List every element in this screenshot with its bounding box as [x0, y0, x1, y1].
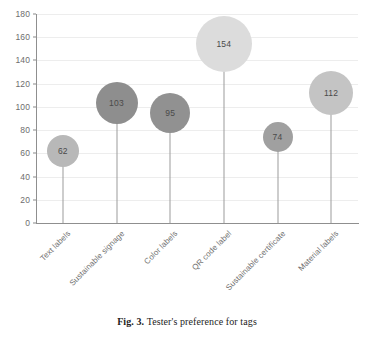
- figure-caption: Fig. 3. Tester's preference for tags: [0, 316, 374, 327]
- y-axis-tick-mark: [33, 83, 36, 84]
- bubble-marker[interactable]: 95: [150, 93, 190, 133]
- caption-text: Tester's preference for tags: [147, 316, 257, 327]
- gridline: [36, 60, 358, 61]
- x-axis-tick-mark: [63, 223, 64, 224]
- x-axis-category-label: Text labels: [38, 229, 72, 263]
- y-axis-tick-label: 80: [0, 125, 36, 135]
- y-axis-tick-label: 100: [0, 102, 36, 112]
- bubble-marker[interactable]: 103: [96, 82, 138, 124]
- bubble-value-label: 103: [109, 98, 124, 108]
- x-axis-category-label: Color labels: [142, 229, 179, 266]
- x-axis-category-label: Sustainable certificate: [224, 229, 287, 292]
- gridline: [36, 14, 358, 15]
- x-axis-category-label: Sustainable signage: [67, 229, 126, 288]
- y-axis-tick-label: 140: [0, 55, 36, 65]
- y-axis-tick-label: 60: [0, 148, 36, 158]
- gridline: [36, 177, 358, 178]
- y-axis-tick-mark: [33, 176, 36, 177]
- x-axis-tick-mark: [224, 223, 225, 224]
- y-axis-tick-label: 20: [0, 195, 36, 205]
- y-axis-line: [36, 14, 37, 224]
- y-axis-tick-mark: [33, 37, 36, 38]
- y-axis-tick-mark: [33, 130, 36, 131]
- bubble-value-label: 95: [165, 108, 175, 118]
- y-axis-tick-label: 0: [0, 218, 36, 228]
- gridline: [36, 153, 358, 154]
- y-axis-tick-label: 40: [0, 172, 36, 182]
- y-axis-tick-mark: [33, 106, 36, 107]
- y-axis-tick-label: 180: [0, 9, 36, 19]
- x-axis-tick-mark: [278, 223, 279, 224]
- x-axis-category-label: QR code label: [190, 229, 233, 272]
- bubble-value-label: 62: [58, 146, 68, 156]
- figure-number: Fig. 3.: [117, 316, 144, 327]
- bubble-value-label: 74: [273, 132, 283, 142]
- y-axis-tick-label: 160: [0, 32, 36, 42]
- y-axis-tick-mark: [33, 223, 36, 224]
- gridline: [36, 130, 358, 131]
- x-axis-tick-mark: [331, 223, 332, 224]
- bubble-marker[interactable]: 74: [263, 122, 293, 152]
- x-axis-category-label: Material labels: [297, 229, 341, 273]
- y-axis-tick-mark: [33, 199, 36, 200]
- bubble-marker[interactable]: 154: [196, 16, 252, 72]
- figure-container: 621039515474112 020406080100120140160180…: [0, 0, 374, 337]
- bubble-marker[interactable]: 112: [309, 71, 353, 115]
- chart-plot-area: 621039515474112: [36, 14, 358, 223]
- x-axis-tick-mark: [117, 223, 118, 224]
- y-axis-tick-mark: [33, 153, 36, 154]
- y-axis-tick-mark: [33, 60, 36, 61]
- bubble-value-label: 154: [216, 39, 231, 49]
- bubble-marker[interactable]: 62: [47, 135, 79, 167]
- x-axis-line: [36, 223, 359, 224]
- y-axis-tick-label: 120: [0, 79, 36, 89]
- gridline: [36, 200, 358, 201]
- gridline: [36, 107, 358, 108]
- y-axis-tick-mark: [33, 14, 36, 15]
- bubble-value-label: 112: [324, 88, 338, 98]
- x-axis-tick-mark: [170, 223, 171, 224]
